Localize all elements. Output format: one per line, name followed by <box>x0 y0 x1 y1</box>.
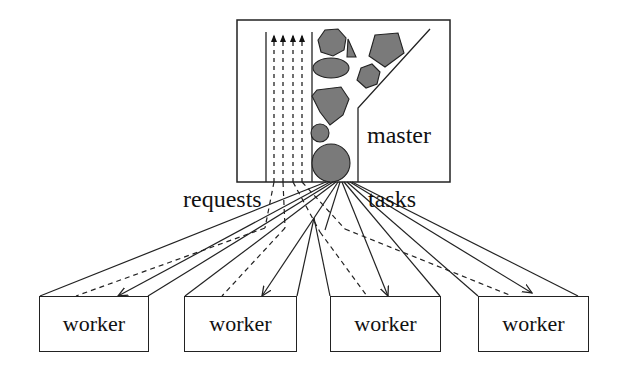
task-circle-small <box>311 124 329 142</box>
worker-box-2: worker <box>184 296 297 352</box>
requests-label: requests <box>183 186 262 213</box>
task-circle-large <box>312 144 350 182</box>
worker-label: worker <box>63 311 125 337</box>
worker-label: worker <box>354 311 416 337</box>
worker-box-3: worker <box>330 296 441 352</box>
task-ellipse <box>313 58 349 78</box>
task-lines <box>40 182 578 296</box>
worker-box-1: worker <box>39 296 149 352</box>
request-lines <box>76 182 512 296</box>
worker-label: worker <box>209 311 271 337</box>
tasks-label: tasks <box>368 186 416 213</box>
worker-label: worker <box>502 311 564 337</box>
master-label: master <box>367 122 431 149</box>
worker-box-4: worker <box>478 296 589 352</box>
